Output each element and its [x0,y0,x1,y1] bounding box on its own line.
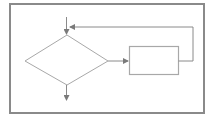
decision-diamond [25,35,108,85]
process-box [130,47,179,75]
flowchart-canvas [0,0,210,121]
